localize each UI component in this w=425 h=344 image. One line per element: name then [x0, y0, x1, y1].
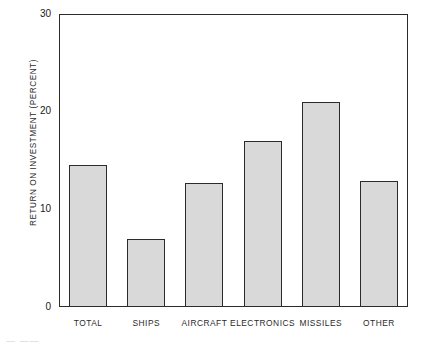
x-tick-label-aircraft: AIRCRAFT	[181, 318, 227, 328]
x-tick-label-electronics: ELECTRONICS	[230, 318, 295, 328]
bar-missiles	[302, 102, 340, 307]
x-tick-label-total: TOTAL	[74, 318, 103, 328]
x-tick-label-other: OTHER	[363, 318, 395, 328]
y-tick-label: 30	[25, 9, 51, 19]
y-tick-label: 0	[25, 302, 51, 312]
x-tick-label-missiles: MISSILES	[299, 318, 342, 328]
y-tick-label: 20	[25, 106, 51, 116]
y-axis-title: RETURN ON INVESTMENT (PERCENT)	[29, 18, 38, 268]
bar-total	[69, 165, 107, 307]
bar-other	[360, 181, 398, 307]
bar-chart-figure: RETURN ON INVESTMENT (PERCENT) 0102030 T…	[0, 0, 425, 344]
x-tick-label-ships: SHIPS	[132, 318, 160, 328]
caption-fragment: — ——	[6, 336, 40, 344]
bar-electronics	[244, 141, 282, 307]
y-tick-label: 10	[25, 204, 51, 214]
bar-ships	[127, 239, 165, 307]
bars-layer	[59, 14, 408, 307]
bar-aircraft	[185, 183, 223, 307]
